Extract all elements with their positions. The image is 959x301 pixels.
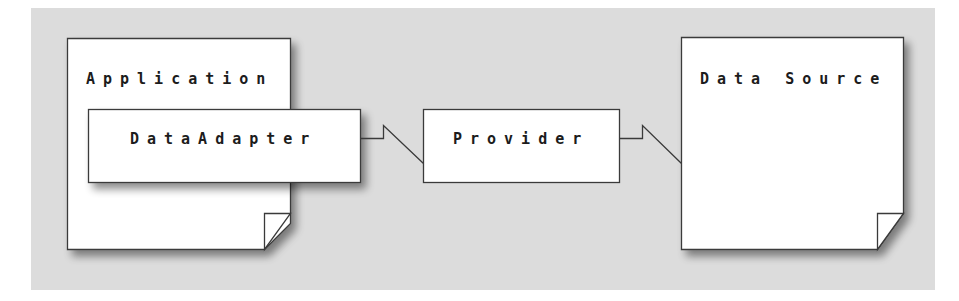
provider-label: Provider — [453, 130, 589, 148]
application-label: Application — [86, 70, 273, 88]
connector-adapter-to-provider — [361, 126, 424, 164]
connector-provider-to-datasource — [620, 126, 682, 164]
diagram-shapes — [0, 0, 959, 301]
data-adapter-label: DataAdapter — [130, 130, 317, 148]
data-source-fold-corner-icon — [878, 214, 904, 250]
application-fold-corner-icon — [265, 214, 291, 250]
data-source-label: Data Source — [700, 70, 887, 88]
